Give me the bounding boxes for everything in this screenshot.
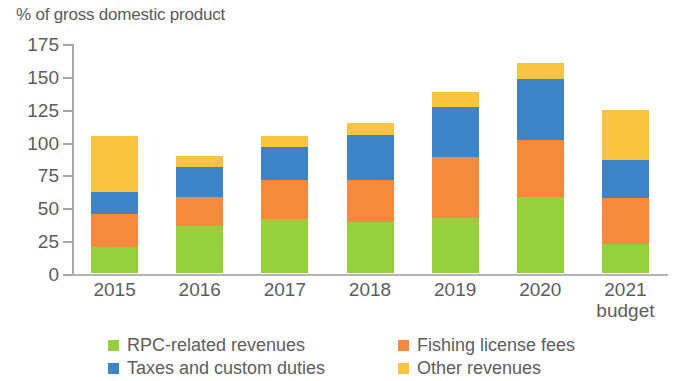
stacked-bar[interactable]: [176, 156, 223, 273]
y-tick-label: 125: [27, 100, 59, 119]
x-axis-label: 2020: [491, 280, 589, 301]
x-axis-label: 2021budget: [576, 280, 674, 321]
y-axis-line: [72, 44, 74, 275]
y-tick-mark: [63, 44, 72, 46]
y-axis-title: % of gross domestic product: [16, 5, 225, 25]
legend-item[interactable]: RPC-related revenues: [108, 336, 398, 354]
legend-label: Fishing license fees: [417, 336, 575, 354]
bar-segment[interactable]: [347, 180, 394, 222]
stacked-bar[interactable]: [91, 136, 138, 273]
legend-item[interactable]: Taxes and custom duties: [108, 359, 398, 377]
bar-segment[interactable]: [261, 136, 308, 147]
bar-group[interactable]: [176, 156, 223, 273]
bar-segment[interactable]: [91, 192, 138, 214]
y-tick-mark: [63, 143, 72, 145]
bar-segment[interactable]: [517, 140, 564, 197]
bar-segment[interactable]: [517, 79, 564, 141]
legend-swatch-icon: [398, 340, 409, 351]
bar-segment[interactable]: [517, 197, 564, 273]
bar-segment[interactable]: [432, 157, 479, 217]
x-axis-line: [72, 274, 668, 276]
bar-segment[interactable]: [602, 110, 649, 160]
legend-row: RPC-related revenuesFishing license fees: [108, 336, 648, 359]
y-tick-mark: [63, 241, 72, 243]
y-tick-label: 100: [27, 133, 59, 152]
legend-label: Other revenues: [417, 359, 541, 377]
y-tick-label: 150: [27, 67, 59, 86]
bar-group[interactable]: [517, 63, 564, 273]
bar-segment[interactable]: [261, 147, 308, 180]
legend-swatch-icon: [108, 363, 119, 374]
stacked-bar[interactable]: [432, 92, 479, 273]
x-axis-sublabel: budget: [576, 301, 674, 322]
bar-segment[interactable]: [432, 107, 479, 157]
bar-segment[interactable]: [347, 222, 394, 273]
bar-segment[interactable]: [517, 63, 564, 79]
bar-segment[interactable]: [91, 247, 138, 273]
legend-label: RPC-related revenues: [127, 336, 305, 354]
y-tick-label: 50: [38, 199, 59, 218]
bar-segment[interactable]: [347, 123, 394, 135]
chart-figure: % of gross domestic product 025507510012…: [0, 0, 675, 381]
bar-segment[interactable]: [432, 92, 479, 108]
x-axis-label: 2017: [236, 280, 334, 301]
bar-group[interactable]: [347, 123, 394, 273]
chart-legend: RPC-related revenuesFishing license fees…: [108, 336, 648, 381]
legend-item[interactable]: Fishing license fees: [398, 336, 575, 354]
bar-segment[interactable]: [176, 156, 223, 167]
bar-group[interactable]: [91, 136, 138, 273]
bar-segment[interactable]: [261, 180, 308, 219]
bar-segment[interactable]: [176, 197, 223, 226]
y-tick-mark: [63, 274, 72, 276]
plot-area: 0255075100125150175 20152016201720182019…: [72, 44, 668, 274]
y-tick-label: 75: [38, 166, 59, 185]
legend-row: Taxes and custom dutiesOther revenues: [108, 359, 648, 381]
y-tick-label: 175: [27, 35, 59, 54]
bar-group[interactable]: [602, 110, 649, 273]
bar-group[interactable]: [261, 136, 308, 273]
legend-label: Taxes and custom duties: [127, 359, 325, 377]
legend-item[interactable]: Other revenues: [398, 359, 541, 377]
bar-segment[interactable]: [347, 135, 394, 180]
x-axis-label: 2015: [66, 280, 164, 301]
x-axis-label: 2018: [321, 280, 419, 301]
bar-segment[interactable]: [602, 244, 649, 273]
stacked-bar[interactable]: [602, 110, 649, 273]
stacked-bar[interactable]: [261, 136, 308, 273]
bar-segment[interactable]: [261, 219, 308, 273]
y-tick-mark: [63, 110, 72, 112]
legend-swatch-icon: [108, 340, 119, 351]
stacked-bar[interactable]: [517, 63, 564, 273]
bar-segment[interactable]: [602, 160, 649, 198]
bar-group[interactable]: [432, 92, 479, 273]
y-tick-mark: [63, 175, 72, 177]
bar-segment[interactable]: [91, 214, 138, 247]
y-tick-label: 25: [38, 232, 59, 251]
bar-segment[interactable]: [176, 226, 223, 273]
bar-segment[interactable]: [432, 218, 479, 273]
legend-swatch-icon: [398, 363, 409, 374]
bar-segment[interactable]: [91, 136, 138, 191]
bar-segment[interactable]: [602, 198, 649, 244]
bar-segment[interactable]: [176, 167, 223, 197]
y-tick-mark: [63, 208, 72, 210]
y-tick-mark: [63, 77, 72, 79]
x-axis-label: 2019: [406, 280, 504, 301]
y-tick-label: 0: [48, 265, 59, 284]
x-axis-label: 2016: [151, 280, 249, 301]
stacked-bar[interactable]: [347, 123, 394, 273]
